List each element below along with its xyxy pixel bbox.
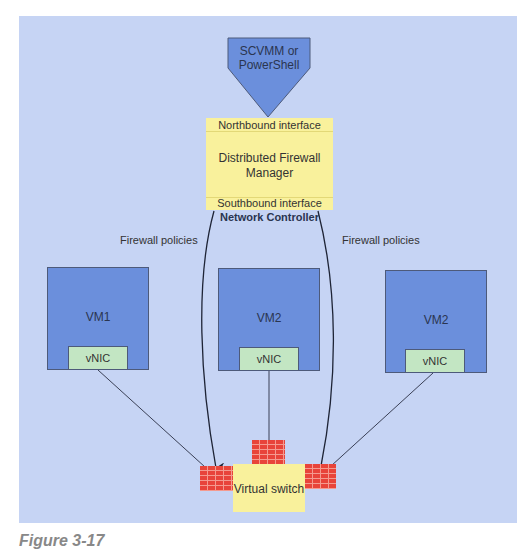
left-policy-label: Firewall policies [120, 234, 198, 247]
right-policy-label: Firewall policies [342, 234, 420, 247]
vm-name: VM2 [219, 311, 319, 325]
distributed-firewall-manager: Northbound interface Distributed Firewal… [206, 118, 333, 210]
vm-name: VM2 [386, 313, 486, 327]
northbound-interface: Northbound interface [206, 119, 333, 131]
network-controller-title: Network Controller [206, 211, 333, 224]
vm3-link [331, 373, 433, 466]
vm1-link [98, 370, 205, 467]
left-policy-arrow [202, 211, 216, 468]
firewall-brick-icon-right [305, 464, 336, 489]
management-label-line2: PowerShell [228, 58, 310, 72]
southbound-interface: Southbound interface [206, 197, 333, 209]
virtual-switch: Virtual switch [233, 464, 305, 512]
manager-label-line1: Distributed Firewall [206, 151, 333, 165]
vnic-2: vNIC [239, 347, 299, 371]
vm-name: VM1 [48, 310, 148, 324]
vnic-1: vNIC [68, 346, 128, 370]
firewall-brick-icon-left [200, 466, 233, 491]
northbound-divider [206, 131, 333, 132]
right-policy-arrow [318, 211, 333, 466]
firewall-brick-icon-top [252, 440, 285, 464]
vnic-3: vNIC [405, 349, 465, 373]
management-label-line1: SCVMM or [228, 44, 310, 58]
management-label: SCVMM or PowerShell [228, 44, 310, 73]
manager-label-line2: Manager [206, 166, 333, 180]
figure-caption: Figure 3-17 [19, 532, 104, 550]
